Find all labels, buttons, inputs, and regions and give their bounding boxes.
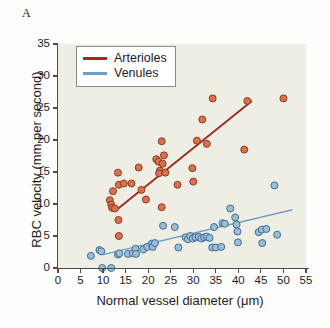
y-tick-label: 5 — [28, 229, 50, 241]
y-tick-mark — [53, 75, 57, 76]
y-tick-label: 20 — [28, 133, 50, 145]
data-point — [98, 248, 105, 255]
legend-swatch-arterioles — [83, 57, 107, 60]
y-tick-label: 10 — [28, 197, 50, 209]
legend-label-arterioles: Arterioles — [114, 51, 167, 66]
data-point — [115, 217, 122, 224]
y-tick-mark — [53, 267, 57, 268]
data-point — [218, 243, 225, 250]
panel-label: A — [22, 6, 31, 21]
y-tick-label: 15 — [28, 165, 50, 177]
x-tick-label: 15 — [115, 274, 137, 286]
y-tick-label: 35 — [28, 37, 50, 49]
x-tick-mark — [305, 269, 306, 273]
x-tick-mark — [125, 269, 126, 273]
data-point — [158, 204, 165, 211]
x-tick-label: 5 — [70, 274, 92, 286]
legend-swatch-venules — [83, 72, 107, 75]
data-point — [209, 95, 216, 102]
data-point — [116, 250, 123, 257]
x-tick-mark — [170, 269, 171, 273]
data-point — [271, 182, 278, 189]
data-point — [110, 188, 117, 195]
x-tick-label: 50 — [272, 274, 294, 286]
y-axis-line — [57, 43, 58, 269]
y-tick-label: 30 — [28, 69, 50, 81]
data-point — [133, 250, 140, 257]
chart-legend: Arterioles Venules — [76, 46, 176, 87]
data-point — [190, 178, 197, 185]
data-point — [241, 146, 248, 153]
x-tick-mark — [57, 269, 58, 273]
data-point — [193, 137, 200, 144]
data-point — [280, 95, 287, 102]
x-tick-label: 0 — [47, 274, 69, 286]
data-point — [158, 138, 165, 145]
data-point — [160, 222, 167, 229]
x-tick-mark — [80, 269, 81, 273]
data-point — [128, 180, 135, 187]
data-point — [135, 164, 142, 171]
data-point — [233, 221, 240, 228]
x-tick-mark — [193, 269, 194, 273]
data-point — [162, 169, 169, 176]
data-point — [175, 244, 182, 251]
y-tick-mark — [53, 171, 57, 172]
y-tick-label: 0 — [28, 261, 50, 273]
x-tick-label: 10 — [92, 274, 114, 286]
data-point — [274, 231, 281, 238]
data-point — [174, 181, 181, 188]
x-tick-mark — [260, 269, 261, 273]
x-tick-label: 45 — [250, 274, 272, 286]
data-point — [111, 205, 118, 212]
data-point — [211, 224, 218, 231]
x-tick-mark — [102, 269, 103, 273]
x-tick-mark — [148, 269, 149, 273]
data-point — [263, 225, 270, 232]
data-point — [160, 152, 167, 159]
y-tick-mark — [53, 139, 57, 140]
x-axis-title: Normal vessel diameter (μm) — [40, 293, 320, 308]
trend-line — [116, 101, 252, 210]
y-tick-mark — [53, 235, 57, 236]
data-point — [159, 160, 166, 167]
x-tick-mark — [283, 269, 284, 273]
data-point — [244, 97, 251, 104]
y-tick-mark — [53, 43, 57, 44]
data-point — [259, 240, 266, 247]
data-point — [120, 180, 127, 187]
y-tick-mark — [53, 203, 57, 204]
x-tick-mark — [238, 269, 239, 273]
data-point — [115, 233, 122, 240]
legend-item-arterioles: Arterioles — [83, 51, 167, 66]
data-point — [142, 196, 149, 203]
x-tick-label: 30 — [182, 274, 204, 286]
legend-item-venules: Venules — [83, 66, 167, 81]
data-point — [203, 140, 210, 147]
legend-label-venules: Venules — [114, 66, 158, 81]
x-tick-label: 20 — [137, 274, 159, 286]
series-venules — [87, 182, 292, 272]
data-point — [206, 234, 213, 241]
data-point — [234, 239, 241, 246]
data-point — [232, 214, 239, 221]
data-point — [227, 205, 234, 212]
data-point — [221, 220, 228, 227]
x-tick-label: 25 — [160, 274, 182, 286]
x-tick-label: 40 — [227, 274, 249, 286]
y-tick-mark — [53, 107, 57, 108]
data-point — [87, 252, 94, 259]
data-point — [151, 240, 158, 247]
data-point — [114, 169, 121, 176]
x-tick-mark — [215, 269, 216, 273]
x-tick-label: 55 — [295, 274, 317, 286]
x-axis-line — [57, 268, 309, 269]
data-point — [234, 228, 241, 235]
figure-panel: A RBC velocity (mm per second) Normal ve… — [0, 0, 330, 328]
data-point — [171, 224, 178, 231]
data-point — [138, 186, 145, 193]
data-point — [199, 116, 206, 123]
y-tick-label: 25 — [28, 101, 50, 113]
x-tick-label: 35 — [205, 274, 227, 286]
data-point — [189, 165, 196, 172]
